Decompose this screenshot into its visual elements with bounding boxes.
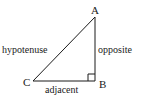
adjacent-label: adjacent — [45, 84, 79, 95]
vertex-a-label: A — [91, 4, 99, 16]
hypotenuse-label: hypotenuse — [2, 44, 48, 55]
right-angle-marker — [88, 74, 95, 81]
triangle-diagram: A B C hypotenuse opposite adjacent — [0, 0, 145, 98]
opposite-label: opposite — [98, 44, 132, 55]
vertex-b-label: B — [99, 78, 106, 90]
vertex-c-label: C — [23, 76, 30, 88]
